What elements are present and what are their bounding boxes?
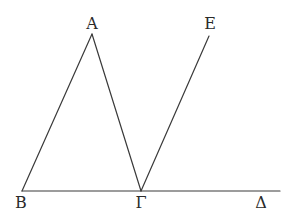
geometry-diagram: Α Ε Β Γ Δ bbox=[0, 0, 293, 219]
label-G: Γ bbox=[135, 193, 146, 212]
segment-GE bbox=[141, 36, 209, 191]
segments bbox=[22, 34, 280, 191]
segment-BA bbox=[22, 34, 92, 191]
label-B: Β bbox=[15, 193, 27, 212]
label-E: Ε bbox=[204, 14, 216, 33]
segment-AG bbox=[92, 34, 141, 191]
point-labels: Α Ε Β Γ Δ bbox=[15, 14, 267, 212]
label-A: Α bbox=[85, 14, 98, 33]
label-D: Δ bbox=[255, 193, 267, 212]
